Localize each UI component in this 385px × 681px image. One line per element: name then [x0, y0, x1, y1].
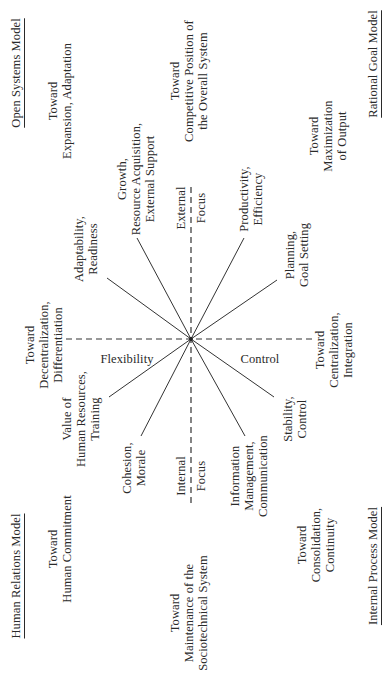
axis-label-flexibility: Flexibility — [100, 352, 153, 366]
spoke-information — [191, 339, 245, 436]
label-toward-human-commitment: Toward Human Commitment — [46, 495, 74, 603]
label-toward-expansion: Toward Expansion, Adaptation — [46, 43, 74, 159]
axis-label-internal-focus: Internal Focus — [174, 456, 208, 496]
spoke-adaptability — [107, 278, 191, 339]
model-title-human-relations: Human Relations Model — [9, 513, 23, 638]
label-growth-resource-acquisition: Growth, Resource Acquisition, External S… — [115, 123, 157, 236]
spoke-productivity — [191, 238, 244, 339]
label-cohesion-morale: Cohesion, Morale — [120, 442, 148, 493]
center-point — [189, 337, 193, 341]
model-title-open-systems: Open Systems Model — [9, 18, 23, 127]
label-toward-sociotechnical: Toward Maintenance of the Sociotechnical… — [168, 555, 210, 671]
label-toward-maximization: Toward Maximization of Output — [307, 100, 349, 171]
label-toward-competitive-position: Toward Competitive Position of the Overa… — [168, 20, 210, 142]
label-adaptability-readiness: Adaptability, Readiness — [72, 216, 100, 282]
label-stability-control: Stability, Control — [281, 396, 309, 442]
spoke-stability — [191, 339, 274, 397]
spoke-planning — [191, 280, 277, 339]
label-productivity-efficiency: Productivity, Efficiency — [237, 166, 265, 231]
label-toward-decentralization: Toward Decentralization, Differentiation — [23, 301, 65, 388]
label-information-management: Information Management, Communication — [228, 435, 270, 517]
model-title-internal-process: Internal Process Model — [366, 507, 380, 625]
label-toward-consolidation: Toward Consolidation, Continuity — [295, 508, 337, 583]
label-planning-goal-setting: Planning, Goal Setting — [283, 223, 311, 287]
axis-label-external-focus: External Focus — [174, 186, 208, 229]
model-title-rational-goal: Rational Goal Model — [366, 10, 380, 117]
spoke-growth — [137, 238, 191, 339]
label-toward-centralization: Toward Centralization, Integration — [313, 312, 355, 387]
competing-values-diagram: Human Relations Model Open Systems Model… — [0, 0, 385, 681]
spoke-value-hr — [109, 339, 191, 397]
label-value-of-human-resources: Value of Human Resources, Training — [60, 371, 102, 467]
axis-label-control: Control — [241, 352, 280, 366]
